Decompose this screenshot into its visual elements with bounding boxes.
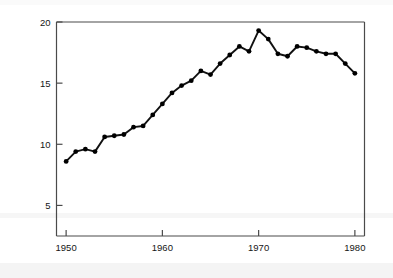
line-chart-plot: 5101520 1950196019701980 bbox=[0, 0, 393, 278]
svg-text:1950: 1950 bbox=[56, 242, 77, 253]
chart-axes bbox=[57, 22, 365, 236]
svg-text:5: 5 bbox=[45, 200, 50, 211]
svg-text:15: 15 bbox=[40, 78, 51, 89]
y-axis-ticks bbox=[57, 22, 63, 205]
svg-text:1970: 1970 bbox=[248, 242, 269, 253]
chart-figure: Fish catch (kg per capita) 5101520 19501… bbox=[0, 0, 393, 278]
svg-text:20: 20 bbox=[40, 17, 51, 28]
x-axis-ticks bbox=[66, 230, 355, 236]
x-axis-tick-labels: 1950196019701980 bbox=[56, 242, 366, 253]
data-series-line bbox=[66, 31, 355, 162]
data-point-markers bbox=[64, 28, 358, 164]
svg-text:1960: 1960 bbox=[152, 242, 173, 253]
y-axis-tick-labels: 5101520 bbox=[40, 17, 51, 211]
svg-text:10: 10 bbox=[40, 139, 51, 150]
svg-text:1980: 1980 bbox=[344, 242, 365, 253]
